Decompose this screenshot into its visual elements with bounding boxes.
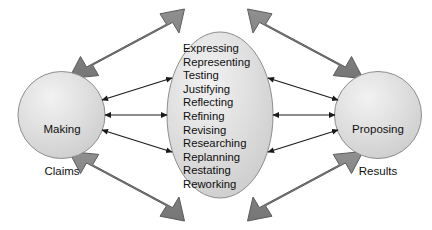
- diagram-canvas: Making Claims Proposing Results Expressi…: [0, 0, 432, 230]
- thin-arrow-right-upper: [268, 78, 338, 100]
- node-proposing-results: [335, 72, 422, 159]
- thick-arrow-top-right: [248, 9, 364, 79]
- node-making-claims: [18, 72, 105, 159]
- thick-arrow-bottom-left: [69, 152, 185, 222]
- thick-arrow-bottom-right: [248, 152, 364, 222]
- thin-arrow-left-lower: [102, 130, 172, 152]
- thin-arrow-left-upper: [102, 78, 172, 100]
- diagram-svg: [0, 0, 432, 230]
- node-processes-ellipse: [167, 32, 273, 198]
- thick-arrow-top-left: [69, 9, 185, 79]
- thin-arrow-right-lower: [268, 130, 338, 152]
